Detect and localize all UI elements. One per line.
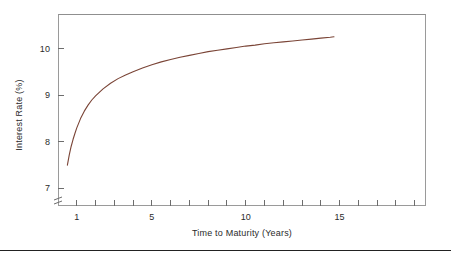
y-axis-break-icon [54,197,62,204]
y-tick-label-7: 7 [34,183,50,193]
figure-canvas: Interest Rate (%) Time to Maturity (Year… [0,0,451,243]
x-tick-label-15: 15 [330,212,350,222]
x-tick-label-10: 10 [236,212,256,222]
axis-break-slash-1 [54,197,62,200]
y-tick-label-8: 8 [34,137,50,147]
x-tick-label-5: 5 [142,212,162,222]
x-axis-ticks [77,200,415,206]
footer-divider [0,250,451,251]
y-axis-ticks [58,49,64,188]
x-tick-label-1: 1 [67,212,87,222]
y-tick-label-10: 10 [34,44,50,54]
chart-screenshot: Interest Rate (%) Time to Maturity (Year… [0,0,451,258]
axis-break-slash-2 [54,201,62,204]
y-tick-label-9: 9 [34,90,50,100]
plot-svg [0,0,451,243]
data-series-group [67,37,334,165]
series-line-0 [67,37,334,165]
